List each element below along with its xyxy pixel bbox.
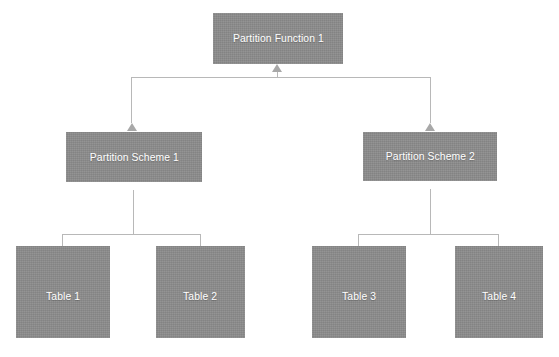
diagram-canvas: Partition Function 1 Partition Scheme 1 … (0, 0, 559, 357)
node-partition-scheme-1[interactable]: Partition Scheme 1 (66, 132, 202, 182)
arrow-scheme-to-function (272, 64, 282, 72)
connector-table3-riser (358, 234, 359, 246)
node-table-3[interactable]: Table 3 (312, 246, 406, 338)
connector-table2-riser (200, 234, 201, 246)
node-label: Partition Scheme 1 (89, 151, 178, 164)
connector-scheme1-riser (131, 77, 132, 123)
node-label: Partition Scheme 2 (385, 150, 474, 163)
connector-scheme2-bus (358, 234, 498, 235)
arrow-into-scheme-2 (425, 123, 435, 131)
connector-scheme1-stem (133, 190, 134, 234)
connector-scheme1-bus (62, 234, 200, 235)
node-label: Table 1 (46, 290, 80, 303)
connector-table1-riser (62, 234, 63, 246)
node-table-2[interactable]: Table 2 (156, 246, 245, 338)
node-partition-function-1[interactable]: Partition Function 1 (213, 13, 343, 64)
node-label: Table 2 (183, 290, 217, 303)
connector-scheme2-stem (430, 189, 431, 234)
connector-table4-riser (498, 234, 499, 246)
node-table-4[interactable]: Table 4 (455, 246, 543, 338)
node-label: Table 3 (342, 290, 376, 303)
node-label: Table 4 (482, 290, 516, 303)
node-label: Partition Function 1 (233, 32, 324, 45)
connector-function-bus (131, 77, 431, 78)
node-table-1[interactable]: Table 1 (16, 246, 110, 338)
connector-scheme2-riser (430, 77, 431, 123)
arrow-into-scheme-1 (127, 123, 137, 131)
node-partition-scheme-2[interactable]: Partition Scheme 2 (363, 132, 497, 181)
